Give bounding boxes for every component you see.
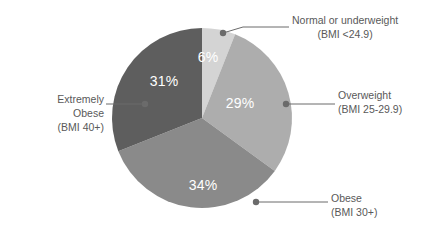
callout-obese-line1: Obese xyxy=(331,192,362,204)
callout-extremely-obese: Extremely Obese (BMI 40+) xyxy=(57,92,104,134)
callout-normal-line1: Normal or underweight xyxy=(292,14,398,26)
callout-normal-or-underweight: Normal or underweight (BMI <24.9) xyxy=(292,13,398,41)
slice-value-overweight: 29% xyxy=(226,95,255,111)
slice-value-normal: 6% xyxy=(198,49,219,65)
callout-obese-line2: (BMI 30+) xyxy=(331,205,377,219)
callout-extreme-line2: Obese xyxy=(57,106,104,120)
pie-chart-figure: 6%29%34%31% Normal or underweight (BMI <… xyxy=(0,0,439,243)
callout-overweight: Overweight (BMI 25-29.9) xyxy=(338,88,402,116)
callout-normal-line2: (BMI <24.9) xyxy=(292,27,398,41)
slice-value-extreme: 31% xyxy=(150,73,179,89)
callout-overweight-line2: (BMI 25-29.9) xyxy=(338,102,402,116)
callout-extreme-line1: Extremely xyxy=(57,93,104,105)
callout-extreme-line3: (BMI 40+) xyxy=(57,120,104,134)
callout-overweight-line1: Overweight xyxy=(338,89,391,101)
leader-obese xyxy=(253,199,328,205)
callout-obese: Obese (BMI 30+) xyxy=(331,191,377,219)
leader-path-normal xyxy=(223,27,289,33)
slice-value-obese: 34% xyxy=(189,177,218,193)
